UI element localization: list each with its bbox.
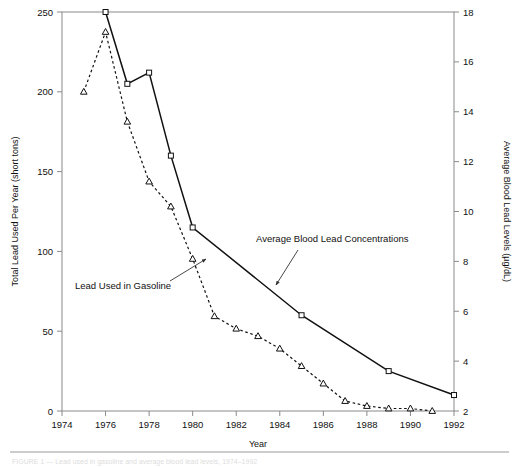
figure-container: 0501001502002502468101214161819741976197… (0, 0, 519, 467)
data-point-triangle (124, 118, 131, 124)
data-point-triangle (80, 88, 87, 94)
x-axis-tick-label: 1986 (313, 419, 334, 430)
axes-layer: 0501001502002502468101214161819741976197… (37, 7, 473, 431)
axis-titles-layer: Total Lead Used Per Year (short tons)Ave… (10, 136, 512, 449)
y2-axis-tick-label: 4 (463, 356, 468, 367)
y-axis-tick-label: 200 (37, 86, 53, 97)
chart-canvas: 0501001502002502468101214161819741976197… (0, 0, 519, 467)
x-axis-tick-label: 1992 (443, 419, 464, 430)
annotations-layer: Lead Used in GasolineAverage Blood Lead … (75, 233, 409, 291)
y2-axis-tick-label: 8 (463, 256, 468, 267)
data-point-triangle (429, 408, 436, 414)
y2-axis-tick-label: 16 (463, 56, 474, 67)
y-axis-tick-label: 250 (37, 7, 53, 18)
data-point-triangle (102, 28, 109, 34)
y-axis-tick-label: 0 (48, 406, 53, 417)
annotation-arrow-icon (276, 250, 298, 285)
x-axis-title: Year (249, 439, 267, 449)
y2-axis-tick-label: 12 (463, 156, 474, 167)
data-point-triangle (168, 203, 175, 209)
y-axis-title: Total Lead Used Per Year (short tons) (10, 136, 20, 286)
x-axis-tick-label: 1974 (51, 419, 72, 430)
y-axis-tick-label: 50 (42, 326, 53, 337)
y2-axis-tick-label: 14 (463, 106, 474, 117)
x-axis-tick-label: 1984 (269, 419, 290, 430)
series-layer (80, 10, 456, 414)
y-axis-tick-label: 100 (37, 246, 53, 257)
data-point-square (103, 10, 108, 15)
data-point-square (386, 369, 391, 374)
annotation-label: Average Blood Lead Concentrations (256, 233, 409, 244)
caption-layer: FIGURE 1 — Lead used in gasoline and ave… (10, 452, 509, 466)
annotation-arrow-icon (170, 259, 206, 281)
y2-axis-tick-label: 10 (463, 206, 474, 217)
series-line (106, 12, 454, 395)
data-point-square (168, 153, 173, 158)
x-axis-tick-label: 1978 (139, 419, 160, 430)
data-point-square (125, 81, 130, 86)
data-point-square (190, 225, 195, 230)
series-lead-used-in-gasoline (103, 10, 456, 398)
y-axis-tick-label: 150 (37, 166, 53, 177)
series-average-blood-lead-concentrations (80, 28, 435, 413)
data-point-triangle (407, 405, 414, 411)
y2-axis-tick-label: 2 (463, 406, 468, 417)
x-axis-tick-label: 1980 (182, 419, 203, 430)
data-point-square (452, 393, 457, 398)
data-point-triangle (211, 313, 218, 319)
x-axis-tick-label: 1990 (400, 419, 421, 430)
y2-axis-tick-label: 18 (463, 7, 474, 18)
y2-axis-tick-label: 6 (463, 306, 468, 317)
data-point-triangle (189, 255, 196, 261)
data-point-square (299, 313, 304, 318)
plot-frame (62, 12, 454, 411)
series-line (84, 32, 432, 411)
figure-caption: FIGURE 1 — Lead used in gasoline and ave… (12, 458, 257, 466)
x-axis-tick-label: 1988 (356, 419, 377, 430)
annotation-label: Lead Used in Gasoline (75, 280, 171, 291)
x-axis-tick-label: 1982 (226, 419, 247, 430)
data-point-triangle (233, 325, 240, 331)
data-point-triangle (276, 345, 283, 351)
annotation-average-blood-lead-concentrations: Average Blood Lead Concentrations (256, 233, 409, 285)
x-axis-tick-label: 1976 (95, 419, 116, 430)
y2-axis-title: Average Blood Lead Levels (µg/dL) (502, 141, 512, 282)
data-point-square (147, 70, 152, 75)
data-point-triangle (146, 178, 153, 184)
annotation-lead-used-in-gasoline: Lead Used in Gasoline (75, 259, 206, 291)
data-point-triangle (342, 398, 349, 404)
